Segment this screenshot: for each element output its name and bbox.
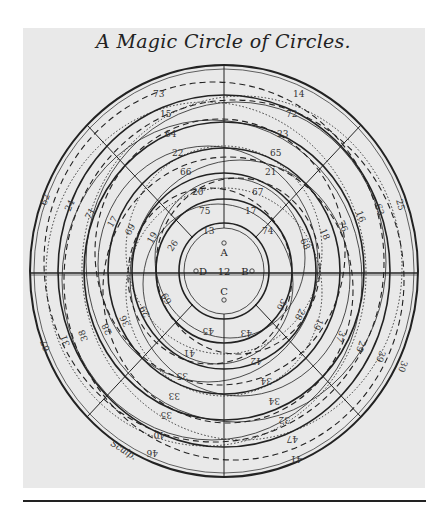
ring-label: 46 [146, 448, 158, 458]
ring-label: 62 [38, 193, 51, 207]
ring-label: 29 [354, 339, 367, 353]
ring-label: 41 [291, 454, 302, 464]
ring-label: 17 [245, 206, 257, 216]
center-value: 12 [218, 266, 231, 277]
ring-label: 69 [123, 222, 138, 237]
ring-label: 42 [251, 356, 262, 366]
ring-label: 41 [184, 348, 195, 358]
ring-label: 15 [160, 109, 172, 119]
ring-label: 32 [279, 415, 290, 425]
ring-label: 14 [293, 89, 305, 99]
point-c: C [220, 286, 228, 297]
ring-label: 37 [334, 329, 348, 344]
ring-label: 63 [373, 203, 386, 217]
ring-label: 34 [260, 376, 272, 386]
ring-label: 18 [318, 227, 332, 242]
engraver-signature: Sculp. [109, 438, 139, 462]
ring-label: 43 [240, 328, 252, 338]
ring-label: 40 [153, 430, 165, 440]
ring-label: 23 [277, 129, 289, 139]
ring-label: 38 [76, 328, 89, 342]
ring-label: 64 [165, 129, 177, 139]
ring-label: 24 [63, 198, 77, 213]
point-d: D [199, 266, 207, 277]
ring-label: 21 [265, 167, 276, 177]
ring-label: 35 [160, 410, 172, 420]
ring-label: 33 [168, 391, 180, 401]
ring-label: 47 [286, 434, 298, 444]
ring-label: 69 [159, 291, 174, 306]
ring-label: 35 [176, 371, 188, 381]
ring-label: 34 [268, 396, 280, 406]
ring-label: 45 [202, 326, 214, 336]
ring-label: 22 [172, 148, 183, 158]
ring-label: 76 [336, 219, 350, 234]
ring-label: 26 [165, 238, 180, 253]
ring-label: 65 [270, 148, 282, 158]
ring-label: 67 [252, 187, 264, 197]
ring-label: 66 [180, 167, 192, 177]
ring-label: 72 [286, 109, 297, 119]
bottom-rule [23, 500, 426, 502]
magic-circle-diagram: 12 A B C D 73 15 64 22 66 20 75 13 14 72… [0, 0, 447, 511]
ring-label: 73 [153, 89, 165, 99]
ring-label: 75 [199, 206, 211, 216]
ring-label: 20 [192, 187, 204, 197]
ring-label: 19 [145, 230, 160, 245]
ring-label: 13 [203, 226, 215, 236]
ring-label: 74 [262, 226, 274, 236]
point-b: B [241, 266, 248, 277]
point-a: A [219, 247, 228, 258]
ring-label: 19 [311, 317, 325, 332]
ring-label: 71 [83, 206, 97, 221]
